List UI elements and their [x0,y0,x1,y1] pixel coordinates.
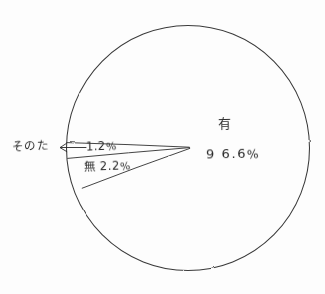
slice-label-sonota-name: そのた [12,141,49,153]
slice-label-nashi: 無 2.2% [84,160,131,173]
slice-label-ari-name: 有 [218,117,232,130]
percent-sign-ari: % [246,148,260,161]
callout-arrow-group [60,143,86,151]
ari-value-number: 9 6.6 [206,146,247,162]
nashi-name-and-value: 無 2.2 [84,159,120,174]
slice-label-ari-value: 9 6.6% [206,147,260,162]
slice-label-sonota-value: 1.2% [86,140,116,153]
percent-sign-nashi: % [119,160,131,172]
percent-sign-sonota: % [105,140,117,152]
pie-chart-figure: 有 9 6.6% そのた 1.2% 無 2.2% [0,0,325,294]
sonota-value-number: 1.2 [86,139,106,154]
